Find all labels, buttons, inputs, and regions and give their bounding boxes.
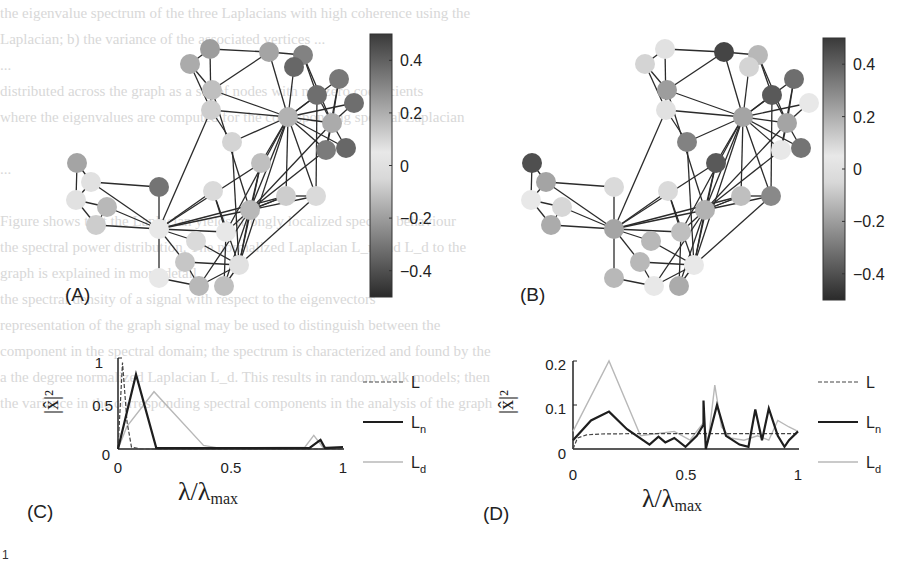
graph-edge bbox=[546, 182, 614, 187]
panel-label-a: (A) bbox=[65, 284, 90, 305]
x-tick-0: 0 bbox=[569, 466, 577, 483]
legend-label: Ld bbox=[411, 454, 426, 475]
graph-node bbox=[149, 219, 169, 239]
graph-node bbox=[677, 132, 697, 152]
series-l-d bbox=[118, 392, 343, 449]
graph-edge bbox=[212, 52, 269, 90]
graph-node bbox=[240, 200, 260, 220]
svg-text:|x̂|²: |x̂|² bbox=[495, 390, 518, 414]
colorbar-tick-label: −0.2 bbox=[853, 213, 885, 230]
x-tick-1: 1 bbox=[794, 466, 802, 483]
graph-node bbox=[761, 186, 781, 206]
graph-node bbox=[200, 39, 220, 59]
graph-edge bbox=[286, 117, 288, 196]
graph-node bbox=[307, 85, 327, 105]
graph-node bbox=[669, 276, 689, 296]
graph-edge bbox=[614, 229, 681, 232]
graph-edge bbox=[741, 117, 743, 196]
y-tick-0: 0 bbox=[558, 445, 566, 462]
graph-node bbox=[714, 42, 734, 62]
colorbar-tick-label: −0.4 bbox=[400, 263, 432, 280]
legend-c: LLnLd bbox=[363, 374, 426, 475]
graph-node bbox=[521, 190, 541, 210]
graph-node bbox=[81, 172, 101, 192]
graph-node bbox=[771, 140, 791, 160]
graph-panel-a bbox=[66, 39, 364, 296]
graph-node bbox=[329, 69, 349, 89]
graph-node bbox=[202, 80, 222, 100]
series-l-n bbox=[118, 374, 343, 449]
graph-node bbox=[536, 172, 556, 192]
series-l bbox=[118, 363, 343, 449]
y-tick-0: 0 bbox=[102, 446, 110, 463]
graph-node bbox=[175, 252, 195, 272]
graph-node bbox=[658, 181, 678, 201]
colorbar-a: 0.40.20−0.2−0.4 bbox=[370, 34, 432, 297]
graph-node bbox=[214, 276, 234, 296]
graph-edge bbox=[269, 52, 288, 117]
y-axis-label: |x̂|² bbox=[40, 390, 63, 414]
y-tick-0.5: 0.5 bbox=[92, 397, 113, 414]
graph-edge bbox=[667, 52, 724, 90]
x-axis-label: λ/λmax bbox=[642, 484, 702, 514]
spectrum-chart-c: 1 0.5 0 0 0.5 1 |x̂|² λ/λmax (C) LLnLd bbox=[27, 354, 426, 522]
colorbar-tick-label: 0.2 bbox=[400, 105, 422, 122]
graph-node bbox=[541, 215, 561, 235]
graph-node bbox=[644, 276, 664, 296]
graph-node bbox=[604, 268, 624, 288]
graph-node bbox=[656, 100, 676, 120]
spectrum-chart-d: 0.2 0.1 0 0 0.5 1 |x̂|² λ/λmax (D) LLnLd bbox=[483, 356, 881, 524]
panel-label-b: (B) bbox=[520, 284, 545, 305]
graph-edge bbox=[316, 95, 317, 196]
graph-node bbox=[799, 93, 819, 113]
graph-node bbox=[306, 186, 326, 206]
colorbar-b: 0.40.20−0.2−0.4 bbox=[823, 38, 885, 300]
graph-panel-b bbox=[521, 39, 819, 296]
y-axis-label: |x̂|² bbox=[495, 390, 518, 414]
graph-node bbox=[733, 107, 753, 127]
graph-node bbox=[97, 197, 117, 217]
colorbar-tick-label: 0.4 bbox=[400, 52, 422, 69]
graph-edge bbox=[159, 229, 226, 232]
graph-edge bbox=[771, 95, 772, 196]
graph-node bbox=[684, 255, 704, 275]
graph-node bbox=[604, 177, 624, 197]
graph-node bbox=[229, 255, 249, 275]
legend-label: L bbox=[866, 374, 875, 391]
graph-edge bbox=[91, 182, 159, 187]
legend-label: Ln bbox=[411, 414, 426, 435]
graph-node bbox=[278, 107, 298, 127]
x-tick-0.5: 0.5 bbox=[221, 459, 242, 476]
colorbar-tick-label: −0.4 bbox=[853, 266, 885, 283]
graph-node bbox=[201, 100, 221, 120]
graph-node bbox=[251, 153, 271, 173]
graph-node bbox=[657, 80, 677, 100]
graph-node bbox=[203, 181, 223, 201]
x-axis-label: λ/λmax bbox=[178, 477, 238, 507]
graph-node bbox=[336, 138, 356, 158]
graph-node bbox=[552, 197, 572, 217]
panel-label-c: (C) bbox=[27, 501, 53, 522]
graph-node bbox=[604, 219, 624, 239]
y-tick-0.1: 0.1 bbox=[545, 400, 566, 417]
graph-node bbox=[344, 93, 364, 113]
colorbar-tick-label: 0 bbox=[853, 161, 862, 178]
legend-d: LLnLd bbox=[818, 374, 881, 475]
graph-node bbox=[86, 215, 106, 235]
graph-node bbox=[671, 222, 691, 242]
figure-canvas: (A) 0.40.20−0.2−0.4 (B) 0.40.20−0.2−0.4 … bbox=[0, 0, 910, 561]
svg-text:|x̂|²: |x̂|² bbox=[40, 390, 63, 414]
graph-node bbox=[739, 57, 759, 77]
y-tick-1: 1 bbox=[95, 354, 103, 371]
graph-node bbox=[635, 54, 655, 74]
graph-node bbox=[706, 153, 726, 173]
graph-node bbox=[762, 85, 782, 105]
colorbar-tick-label: 0.2 bbox=[853, 109, 875, 126]
graph-node bbox=[284, 57, 304, 77]
graph-node bbox=[276, 186, 296, 206]
legend-label: Ld bbox=[866, 454, 881, 475]
colorbar-tick-label: 0 bbox=[400, 158, 409, 175]
graph-node bbox=[784, 69, 804, 89]
series-l-n bbox=[573, 401, 798, 449]
graph-b-nodes bbox=[521, 39, 819, 296]
